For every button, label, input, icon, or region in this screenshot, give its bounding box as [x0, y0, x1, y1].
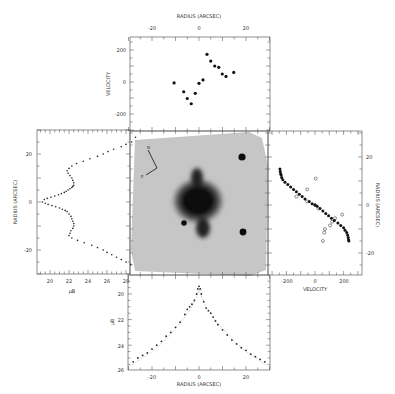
svg-text:N: N: [147, 145, 150, 150]
bottom-xlabel: RADIUS (ARCSEC): [177, 381, 221, 387]
data-point: [73, 182, 75, 184]
data-point-filled: [347, 240, 350, 243]
data-point: [42, 201, 44, 203]
data-point-open: [331, 220, 334, 223]
data-point: [213, 64, 216, 67]
data-point: [68, 235, 70, 237]
data-point: [146, 352, 148, 354]
data-point: [116, 256, 118, 258]
svg-text:26: 26: [104, 278, 110, 284]
right-rotation-curve-plot: RADIUS (ARCSEC) VELOCITY -200 0 200 20 0…: [268, 131, 381, 292]
data-point: [125, 261, 127, 263]
data-point-filled: [281, 178, 284, 181]
data-point: [47, 204, 49, 206]
data-point: [175, 326, 177, 328]
data-point: [184, 314, 186, 316]
data-point: [186, 308, 188, 310]
data-point: [68, 213, 70, 215]
data-point: [83, 242, 85, 244]
data-point: [224, 75, 227, 78]
data-point: [64, 210, 66, 212]
data-point: [131, 141, 133, 143]
data-point-filled: [292, 188, 295, 191]
data-point-open: [314, 177, 317, 180]
data-point-open: [341, 213, 344, 216]
right-ylabel: RADIUS (ARCSEC): [375, 183, 381, 227]
data-point: [69, 188, 71, 190]
svg-text:22: 22: [66, 278, 72, 284]
data-point-filled: [339, 224, 342, 227]
data-point: [61, 193, 63, 195]
data-point: [89, 158, 91, 160]
data-point: [73, 184, 75, 186]
data-point: [58, 194, 60, 196]
top-xtick: 20: [243, 25, 249, 31]
svg-text:20: 20: [26, 151, 32, 157]
data-point-filled: [336, 222, 339, 225]
data-point: [255, 356, 257, 358]
data-point: [54, 195, 56, 197]
data-point-filled: [311, 202, 314, 205]
data-point-open: [306, 188, 309, 191]
svg-text:24: 24: [118, 343, 124, 349]
data-point: [221, 72, 224, 75]
data-point-filled: [283, 181, 286, 184]
data-point: [198, 285, 200, 287]
data-point: [44, 199, 46, 201]
data-point: [137, 357, 139, 359]
data-point: [71, 237, 73, 239]
bottom-surface-brightness-plot: RADIUS (ARCSEC) μB -20 0 20 20 22 24 26: [109, 275, 270, 387]
svg-text:22: 22: [118, 317, 124, 323]
data-point: [203, 301, 205, 303]
data-point: [191, 303, 193, 305]
data-point: [59, 207, 61, 209]
data-point: [217, 66, 220, 69]
data-point: [186, 97, 189, 100]
data-point: [68, 168, 70, 170]
data-point: [245, 349, 247, 351]
bottom-ylabel: μB: [109, 318, 116, 325]
data-point: [111, 254, 113, 256]
left-xlabel: μB: [69, 288, 76, 295]
data-point: [63, 192, 65, 194]
data-point-open: [295, 195, 298, 198]
data-point-filled: [321, 210, 324, 213]
data-point-filled: [295, 190, 298, 193]
data-point: [69, 175, 71, 177]
data-point: [189, 306, 191, 308]
data-point: [44, 202, 46, 204]
star: [240, 229, 247, 236]
star: [238, 153, 245, 160]
right-xlabel: VELOCITY: [303, 286, 328, 292]
data-point: [130, 264, 132, 266]
data-point: [142, 355, 144, 357]
figure-canvas: N E RADIUS (ARCSEC) VELOCITY -20 0 20 20…: [0, 0, 395, 394]
data-point: [62, 208, 64, 210]
data-point-filled: [327, 214, 330, 217]
data-point: [182, 90, 185, 93]
data-point: [65, 190, 67, 192]
svg-text:20: 20: [118, 291, 124, 297]
star: [181, 220, 187, 226]
data-point: [67, 189, 69, 191]
data-point: [120, 146, 122, 148]
data-point: [97, 156, 99, 158]
svg-text:0: 0: [197, 374, 200, 380]
data-point: [71, 177, 73, 179]
data-point: [107, 151, 109, 153]
data-point: [102, 153, 104, 155]
data-point: [132, 361, 134, 363]
data-point: [156, 344, 158, 346]
data-point-open: [324, 228, 327, 231]
svg-text:20: 20: [366, 154, 372, 160]
data-point: [67, 172, 69, 174]
data-point: [135, 136, 137, 138]
top-ytick: 0: [123, 79, 126, 85]
data-point: [205, 53, 208, 56]
svg-text:-20: -20: [24, 247, 32, 253]
top-xlabel: RADIUS (ARCSEC): [177, 13, 221, 19]
data-point: [196, 293, 198, 295]
data-point-open: [329, 224, 332, 227]
data-point: [209, 59, 212, 62]
data-point-filled: [289, 186, 292, 189]
